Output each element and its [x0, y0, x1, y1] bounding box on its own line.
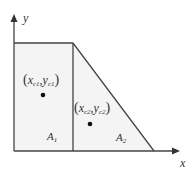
y-axis-arrow-icon — [11, 14, 18, 22]
composite-shape-fill — [14, 43, 154, 151]
centroid-label-1: (xc1,yc1) — [23, 72, 60, 88]
x-axis-label: x — [179, 156, 186, 170]
composite-area-diagram: y x (xc1,yc1) (xc2,yc2) A1 A2 — [0, 0, 192, 173]
x-axis-arrow-icon — [172, 148, 180, 155]
centroid-dot-2 — [88, 122, 93, 127]
y-axis-label: y — [22, 11, 29, 25]
centroid-label-2: (xc2,yc2) — [74, 100, 111, 116]
centroid-dot-1 — [41, 93, 46, 98]
